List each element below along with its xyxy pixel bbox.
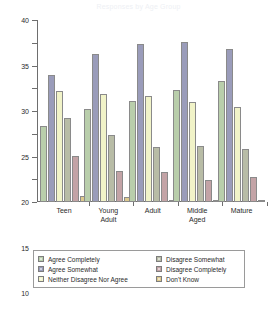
bar [40,126,47,202]
bar [250,177,257,202]
legend-swatch-icon [156,266,162,272]
legend-item[interactable]: Don't Know [156,274,240,284]
bar-cluster [173,20,220,202]
bar [129,101,136,202]
bar [258,200,265,202]
y-tick-label: 20 [21,199,29,206]
bar [181,42,188,202]
bar [218,81,225,202]
legend-label: Disagree Somewhat [166,256,225,263]
y-tick-label: 15 [21,244,29,251]
legend-label: Agree Somewhat [48,266,98,273]
y-tick: 0 [32,202,37,203]
bar-cluster [84,20,131,202]
legend-item[interactable]: Disagree Completely [156,264,240,274]
y-tick-label: 40 [21,17,29,24]
bar [64,118,71,202]
y-tick: 25 [32,88,37,89]
y-tick-label: 10 [21,290,29,297]
bar [234,107,241,202]
legend-item[interactable]: Disagree Somewhat [156,254,240,264]
bar-cluster [40,20,87,202]
y-tick: 40 [32,20,37,21]
bar [56,91,63,202]
bar [242,149,249,202]
bar [226,49,233,202]
bar [116,171,123,202]
legend-label: Agree Completely [48,256,100,263]
y-tick-label: 30 [21,108,29,115]
bar [145,96,152,202]
chart-title: Responses by Age Group [0,0,277,13]
y-tick-label: 25 [21,153,29,160]
legend-swatch-icon [38,276,44,282]
bar [197,146,204,202]
y-tick: 35 [32,43,37,44]
legend-swatch-icon [156,276,162,282]
legend-swatch-icon [38,256,44,262]
y-tick-label: 35 [21,62,29,69]
legend-column-left: Agree CompletelyAgree SomewhatNeither Di… [38,254,156,284]
bar [161,172,168,202]
bar [205,180,212,202]
bar [173,90,180,202]
bar-chart: Responses by Age Group 0510152025303540 … [0,0,277,309]
y-tick: 10 [32,157,37,158]
x-axis-label: Mature [210,206,274,215]
plot-area: 0510152025303540 [37,20,259,202]
bar [100,94,107,202]
chart-legend: Agree CompletelyAgree SomewhatNeither Di… [33,250,245,288]
legend-column-right: Disagree SomewhatDisagree CompletelyDon'… [156,254,240,284]
y-tick: 5 [32,179,37,180]
legend-label: Don't Know [166,276,199,283]
bar [72,156,79,202]
bar-cluster [129,20,176,202]
legend-swatch-icon [156,256,162,262]
bar [48,75,55,202]
legend-label: Neither Disagree Nor Agree [48,276,128,283]
bar [137,44,144,202]
bar [189,102,196,202]
y-tick: 30 [32,66,37,67]
legend-swatch-icon [38,266,44,272]
y-tick: 15 [32,134,37,135]
bar [84,109,91,202]
legend-item[interactable]: Agree Somewhat [38,264,156,274]
y-tick: 20 [32,111,37,112]
legend-label: Disagree Completely [166,266,226,273]
bar [153,147,160,202]
bar [92,54,99,202]
legend-item[interactable]: Neither Disagree Nor Agree [38,274,156,284]
bar [108,135,115,202]
legend-item[interactable]: Agree Completely [38,254,156,264]
bar-cluster [218,20,265,202]
y-axis-line [37,20,38,202]
